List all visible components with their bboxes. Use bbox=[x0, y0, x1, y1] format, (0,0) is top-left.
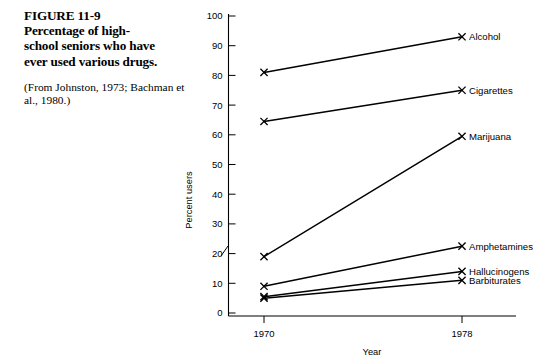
y-axis-ticks: 0102030405060708090100 bbox=[207, 10, 236, 318]
y-tick-label: 80 bbox=[212, 70, 223, 81]
chart-canvas: 0102030405060708090100 19701978 AlcoholC… bbox=[0, 0, 548, 364]
series-label-cigarettes: Cigarettes bbox=[469, 85, 513, 96]
x-tick-label: 1970 bbox=[253, 328, 274, 339]
series-line-cigarettes bbox=[264, 90, 462, 121]
y-tick-label: 50 bbox=[212, 159, 223, 170]
y-tick-label: 0 bbox=[217, 307, 222, 318]
y-tick-label: 70 bbox=[212, 100, 223, 111]
x-axis-ticks: 19701978 bbox=[253, 316, 472, 339]
series-label-group: AlcoholCigarettesMarijuanaAmphetaminesHa… bbox=[469, 31, 533, 286]
series-line-hallucinogens bbox=[264, 271, 462, 296]
x-axis-title: Year bbox=[363, 347, 382, 357]
series-label-alcohol: Alcohol bbox=[469, 31, 500, 42]
y-tick-label: 10 bbox=[212, 278, 223, 289]
series-line-marijuana bbox=[264, 136, 462, 256]
y-tick-label: 100 bbox=[207, 10, 223, 21]
series-label-barbiturates: Barbiturates bbox=[469, 275, 521, 286]
y-tick-label: 60 bbox=[212, 129, 223, 140]
series-line-alcohol bbox=[264, 37, 462, 73]
y-tick-label: 40 bbox=[212, 189, 223, 200]
y-axis-title: Percent users bbox=[184, 171, 194, 229]
figure-container: FIGURE 11-9 Percentage of high- school s… bbox=[0, 0, 548, 364]
y-tick-label: 30 bbox=[212, 218, 223, 229]
data-point-marker-marijuana bbox=[458, 133, 465, 140]
y-tick-label: 20 bbox=[212, 248, 223, 259]
y-tick-label: 90 bbox=[212, 40, 223, 51]
x-tick-label: 1978 bbox=[451, 328, 472, 339]
series-label-amphetamines: Amphetamines bbox=[469, 241, 533, 252]
data-point-marker-marijuana bbox=[260, 253, 267, 260]
series-line-barbiturates bbox=[264, 280, 462, 298]
line-chart: 0102030405060708090100 19701978 AlcoholC… bbox=[0, 0, 548, 364]
series-line-amphetamines bbox=[264, 246, 462, 286]
series-label-marijuana: Marijuana bbox=[469, 131, 512, 142]
data-series-group bbox=[260, 33, 465, 302]
